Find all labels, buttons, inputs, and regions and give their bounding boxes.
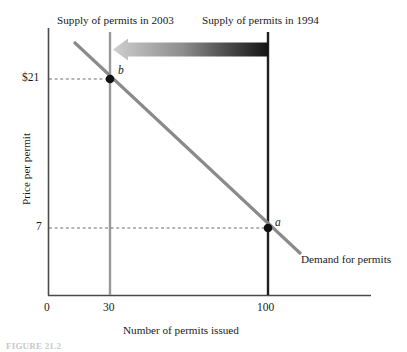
- x-tick-30: 30: [103, 302, 115, 314]
- y-axis-title: Price per permit: [20, 133, 32, 205]
- y-tick-7: 7: [36, 221, 42, 233]
- x-axis-title: Number of permits issued: [123, 325, 239, 336]
- x-tick-100: 100: [257, 302, 274, 314]
- point-a-label: a: [275, 217, 281, 229]
- chart-svg: [0, 0, 407, 352]
- figure-canvas: Supply of permits in 2003 Supply of perm…: [0, 0, 407, 352]
- y-tick-21: $21: [22, 72, 39, 84]
- point-b-label: b: [118, 65, 124, 77]
- supply-2003-label: Supply of permits in 2003: [57, 15, 174, 26]
- demand-curve-label: Demand for permits: [301, 254, 391, 265]
- point-a-marker: [264, 224, 273, 233]
- x-tick-0: 0: [44, 302, 50, 314]
- point-b-marker: [106, 75, 115, 84]
- figure-caption: FIGURE 21.2: [6, 341, 61, 352]
- supply-1994-label: Supply of permits in 1994: [202, 15, 319, 26]
- supply-shift-arrow: [113, 39, 268, 61]
